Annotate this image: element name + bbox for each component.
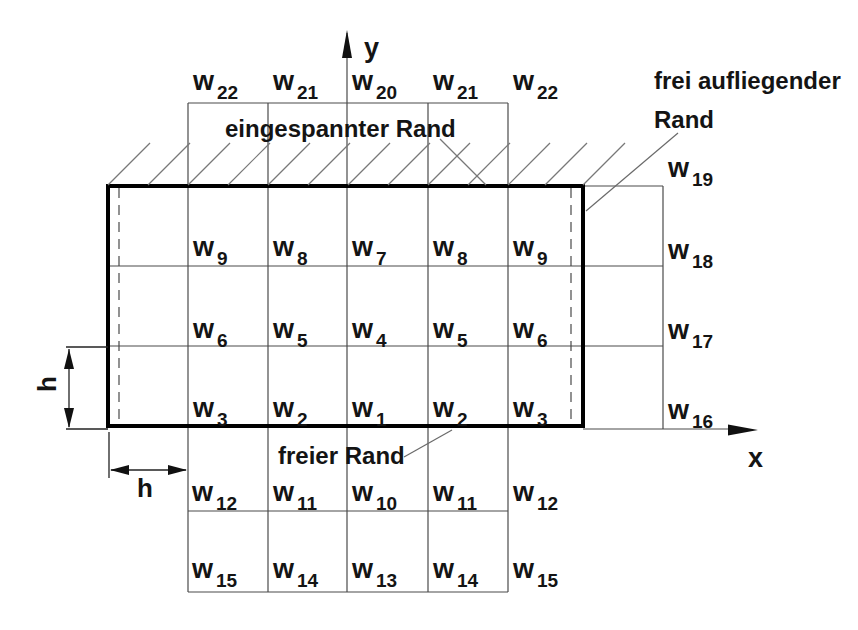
hatching-clamped-edge (108, 143, 625, 185)
hatch-line (108, 143, 150, 185)
node-label-w11-left: w11 (272, 477, 318, 514)
dimension-bottom-h (109, 432, 187, 478)
hatch-cross-line (440, 139, 486, 185)
diagram-svg: y x eingespannter Rand freier Rand frei … (0, 0, 858, 630)
hatch-line (308, 143, 350, 185)
node-label-w20: w20 (351, 66, 397, 103)
hatch-line (468, 143, 510, 185)
grid-horizontal-lines (108, 103, 742, 592)
node-label-w9-left: w9 (192, 232, 228, 269)
node-labels-row-below-second: w15 w14 w13 w14 w15 (191, 554, 559, 591)
node-label-w8-left: w8 (272, 232, 308, 269)
simply-supported-edge-label-line2: Rand (654, 106, 714, 133)
node-label-w22-right: w22 (512, 66, 558, 103)
hatch-line (388, 143, 430, 185)
node-label-w15-right: w15 (512, 554, 559, 591)
dimension-arrowhead-up-icon (64, 349, 74, 369)
node-label-w14-right: w14 (432, 554, 479, 591)
hatch-line (228, 143, 270, 185)
node-label-w8-right: w8 (432, 232, 468, 269)
hatch-line (268, 143, 310, 185)
clamped-edge-label: eingespannter Rand (225, 115, 456, 142)
dimension-left-h (64, 347, 108, 429)
hatch-line (508, 143, 550, 185)
node-label-w18: w18 (667, 235, 713, 272)
dimension-arrowhead-down-icon (64, 408, 74, 428)
node-labels-row-upper: w9 w8 w7 w8 w9 (192, 232, 548, 269)
y-axis-label: y (364, 33, 379, 63)
x-axis-label: x (748, 443, 763, 473)
plate-outline (108, 186, 583, 426)
hatch-line (188, 143, 230, 185)
node-label-w7: w7 (351, 232, 387, 269)
bottom-spacing-label: h (137, 473, 153, 503)
node-label-w12-right: w12 (512, 477, 558, 514)
leader-simply-supported-edge (586, 133, 678, 211)
hatch-line (148, 143, 190, 185)
node-label-w22-left: w22 (192, 66, 238, 103)
dimension-arrowhead-right-icon (168, 465, 187, 475)
finite-difference-plate-diagram: y x eingespannter Rand freier Rand frei … (0, 0, 858, 630)
node-label-w13: w13 (351, 554, 397, 591)
hatch-line (583, 143, 625, 185)
node-label-w15-left: w15 (191, 554, 238, 591)
hatch-line (348, 143, 390, 185)
node-label-w19: w19 (667, 153, 713, 190)
hatch-line (545, 143, 587, 185)
node-label-w10: w10 (351, 477, 397, 514)
node-labels-row-above-top: w22 w21 w20 w21 w22 (192, 66, 558, 103)
x-axis-arrowhead-icon (728, 425, 758, 436)
node-label-w17: w17 (667, 315, 713, 352)
node-label-w21-left: w21 (272, 66, 319, 103)
node-label-w11-right: w11 (432, 477, 478, 514)
simply-supported-edge-label-line1: frei aufliegender (654, 67, 841, 94)
node-label-w14-left: w14 (272, 554, 319, 591)
hatch-line (428, 143, 470, 185)
left-spacing-label: h (32, 376, 62, 392)
node-label-w21-right: w21 (432, 66, 479, 103)
node-label-w12-left: w12 (191, 477, 237, 514)
node-label-w9-right: w9 (512, 232, 548, 269)
y-axis-arrowhead-icon (342, 30, 352, 58)
dimension-arrowhead-left-icon (110, 465, 129, 475)
node-label-w16: w16 (667, 395, 713, 432)
free-edge-label: freier Rand (278, 442, 405, 469)
node-labels-row-below-first: w12 w11 w10 w11 w12 (191, 477, 558, 514)
node-labels-column-right: w19 w18 w17 w16 (667, 153, 713, 432)
